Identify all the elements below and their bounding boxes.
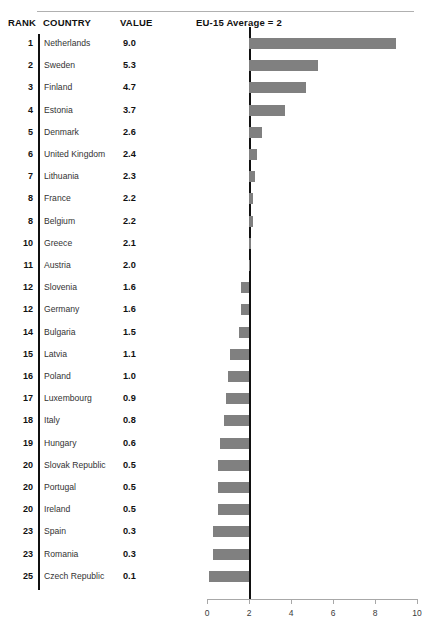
cell-country: Poland (44, 371, 71, 382)
cell-rank: 25 (5, 571, 33, 582)
column-header-rank: RANK (5, 17, 39, 28)
cell-rank: 1 (5, 38, 33, 49)
x-axis-tick-label: 2 (237, 608, 261, 618)
cell-rank: 20 (5, 504, 33, 515)
column-header-value: VALUE (120, 17, 153, 28)
cell-rank: 20 (5, 460, 33, 471)
table-row: 7Lithuania2.3 (0, 167, 421, 189)
table-row: 12Slovenia1.6 (0, 278, 421, 300)
cell-value: 2.1 (123, 238, 136, 249)
cell-country: Estonia (44, 105, 73, 116)
cell-country: Portugal (44, 482, 76, 493)
average-reference-label: EU-15 Average = 2 (196, 17, 282, 28)
cell-country: Lithuania (44, 171, 79, 182)
cell-country: Belgium (44, 216, 75, 227)
cell-rank: 10 (5, 238, 33, 249)
cell-rank: 23 (5, 549, 33, 560)
cell-country: Romania (44, 549, 78, 560)
table-row: 18Italy0.8 (0, 411, 421, 433)
table-row: 2Sweden5.3 (0, 56, 421, 78)
table-row: 20Slovak Republic0.5 (0, 456, 421, 478)
cell-country: Sweden (44, 60, 75, 71)
table-row: 1Netherlands9.0 (0, 34, 421, 56)
table-row: 17Luxembourg0.9 (0, 389, 421, 411)
x-axis-tick-label: 0 (195, 608, 219, 618)
cell-rank: 6 (5, 149, 33, 160)
cell-value: 0.5 (123, 482, 136, 493)
cell-value: 0.5 (123, 504, 136, 515)
table-row: 19Hungary0.6 (0, 434, 421, 456)
header-rule (37, 11, 414, 12)
table-row: 23Spain0.3 (0, 522, 421, 544)
table-row: 5Denmark2.6 (0, 123, 421, 145)
cell-country: Italy (44, 415, 60, 426)
cell-rank: 3 (5, 82, 33, 93)
cell-value: 4.7 (123, 82, 136, 93)
cell-rank: 15 (5, 349, 33, 360)
x-axis-tick (417, 599, 418, 604)
cell-value: 9.0 (123, 38, 136, 49)
table-header: RANK COUNTRY VALUE EU-15 Average = 2 (0, 17, 421, 33)
cell-rank: 16 (5, 371, 33, 382)
cell-value: 0.1 (123, 571, 136, 582)
cell-value: 2.2 (123, 216, 136, 227)
cell-country: United Kingdom (44, 149, 105, 160)
table-row: 8Belgium2.2 (0, 212, 421, 234)
cell-country: Greece (44, 238, 72, 249)
table-row: 11Austria2.0 (0, 256, 421, 278)
cell-country: Ireland (44, 504, 70, 515)
table-row: 16Poland1.0 (0, 367, 421, 389)
cell-rank: 8 (5, 216, 33, 227)
cell-rank: 23 (5, 526, 33, 537)
cell-country: Luxembourg (44, 393, 92, 404)
cell-value: 0.3 (123, 549, 136, 560)
cell-value: 0.9 (123, 393, 136, 404)
cell-country: Slovenia (44, 282, 77, 293)
cell-country: Finland (44, 82, 72, 93)
cell-country: Spain (44, 526, 66, 537)
x-axis-tick-label: 6 (321, 608, 345, 618)
x-axis-tick (291, 599, 292, 604)
cell-value: 1.6 (123, 304, 136, 315)
cell-value: 1.6 (123, 282, 136, 293)
x-axis-tick (207, 599, 208, 604)
cell-rank: 12 (5, 304, 33, 315)
table-row: 23Romania0.3 (0, 545, 421, 567)
cell-country: Bulgaria (44, 327, 76, 338)
cell-value: 0.5 (123, 460, 136, 471)
cell-rank: 20 (5, 482, 33, 493)
cell-rank: 14 (5, 327, 33, 338)
cell-value: 2.3 (123, 171, 136, 182)
table-row: 25Czech Republic0.1 (0, 567, 421, 589)
cell-rank: 19 (5, 438, 33, 449)
cell-rank: 17 (5, 393, 33, 404)
cell-value: 3.7 (123, 105, 136, 116)
cell-value: 2.6 (123, 127, 136, 138)
cell-value: 2.4 (123, 149, 136, 160)
cell-country: Denmark (44, 127, 79, 138)
cell-country: Germany (44, 304, 79, 315)
table-row: 8France2.2 (0, 189, 421, 211)
cell-rank: 5 (5, 127, 33, 138)
cell-rank: 18 (5, 415, 33, 426)
table-row: 3Finland4.7 (0, 78, 421, 100)
cell-rank: 8 (5, 193, 33, 204)
table-row: 12Germany1.6 (0, 300, 421, 322)
cell-value: 1.1 (123, 349, 136, 360)
column-header-country: COUNTRY (43, 17, 91, 28)
cell-value: 1.5 (123, 327, 136, 338)
x-axis-line (207, 599, 417, 600)
cell-rank: 7 (5, 171, 33, 182)
cell-value: 0.6 (123, 438, 136, 449)
cell-rank: 12 (5, 282, 33, 293)
table-row: 6United Kingdom2.4 (0, 145, 421, 167)
cell-country: Slovak Republic (44, 460, 106, 471)
x-axis-tick (333, 599, 334, 604)
x-axis-tick (375, 599, 376, 604)
table-row: 20Portugal0.5 (0, 478, 421, 500)
table-row: 20Ireland0.5 (0, 500, 421, 522)
x-axis-tick (249, 599, 250, 604)
x-axis-tick-label: 10 (405, 608, 426, 618)
x-axis-tick-label: 4 (279, 608, 303, 618)
